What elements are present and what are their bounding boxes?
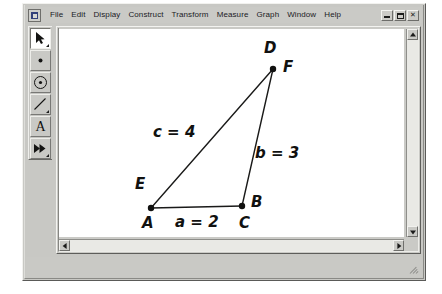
sketch-canvas[interactable]: D F E A B C c = 4 b = 3 a = 2 [59,29,404,237]
scroll-down-button[interactable] [407,226,418,237]
horizontal-scrollbar[interactable] [59,239,404,251]
point-tool[interactable] [30,50,51,71]
measurement-a[interactable]: a = 2 [175,215,219,230]
geometry-figure [59,29,404,237]
toolbox-palette: A [28,26,52,160]
close-icon: ✕ [408,11,418,20]
status-bar [26,257,422,277]
tool-expand-corner [46,44,49,47]
vertex-label-C[interactable]: C [239,216,250,231]
vertex-point[interactable] [148,205,154,211]
vertex-label-F[interactable]: F [283,60,293,75]
horizontal-scroll-track[interactable] [70,240,393,251]
window-controls: ✕ [381,10,422,21]
compass-circle-tool[interactable] [30,72,51,93]
text-label-tool[interactable]: A [30,116,51,137]
close-button[interactable]: ✕ [407,10,419,21]
chevron-up-icon [410,32,416,36]
vertical-scrollbar[interactable] [406,29,418,237]
menu-item-display[interactable]: Display [89,9,124,21]
screen: File Edit Display Construct Transform Me… [0,0,442,294]
measurement-b[interactable]: b = 3 [255,146,299,161]
vertex-label-E[interactable]: E [135,177,145,192]
segment-b[interactable] [242,69,273,206]
selection-arrow-tool[interactable] [30,28,51,49]
scroll-left-button[interactable] [59,240,70,251]
circle-icon [32,74,49,91]
application-window: File Edit Display Construct Transform Me… [22,3,426,281]
custom-tool[interactable] [30,138,51,159]
menu-item-window[interactable]: Window [283,9,320,21]
vertex-point[interactable] [270,66,276,72]
tool-expand-corner [46,154,49,157]
menu-item-graph[interactable]: Graph [252,9,283,21]
menu-item-help[interactable]: Help [320,9,345,21]
straightedge-tool[interactable] [30,94,51,115]
sketchpad-app-icon[interactable] [28,9,41,22]
chevron-left-icon [62,243,66,249]
menu-item-transform[interactable]: Transform [168,9,213,21]
point-icon [32,52,49,69]
measurement-c[interactable]: c = 4 [153,125,195,140]
vertex-label-B[interactable]: B [251,195,262,210]
restore-button[interactable] [394,10,406,21]
menu-item-measure[interactable]: Measure [213,9,253,21]
resize-grip[interactable] [407,263,420,276]
chevron-right-icon [397,243,401,249]
menu-item-construct[interactable]: Construct [124,9,167,21]
vertex-label-D[interactable]: D [264,41,276,56]
menu-bar: File Edit Display Construct Transform Me… [26,7,422,23]
vertex-point[interactable] [239,203,245,209]
chevron-down-icon [410,230,416,234]
scroll-up-button[interactable] [407,29,418,40]
text-a-icon: A [31,117,50,136]
scroll-right-button[interactable] [393,240,404,251]
tool-expand-corner [46,110,49,113]
vertical-scroll-track[interactable] [407,40,418,226]
minimize-button[interactable] [381,10,393,21]
menu-item-edit[interactable]: Edit [67,9,89,21]
vertex-label-A[interactable]: A [142,216,154,231]
sketch-document-window: D F E A B C c = 4 b = 3 a = 2 [56,26,421,254]
menu-item-file[interactable]: File [46,9,67,21]
segment-a[interactable] [151,206,242,208]
